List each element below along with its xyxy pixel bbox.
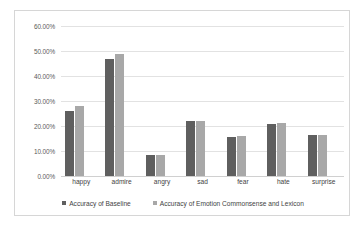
bar — [146, 155, 155, 177]
y-axis-tick-label: 50.00% — [34, 48, 55, 55]
legend-item[interactable]: Accuracy of Emotion Commonsense and Lexi… — [153, 200, 304, 207]
plot-area — [61, 26, 344, 176]
bar — [115, 54, 124, 176]
legend-swatch-icon — [153, 201, 157, 205]
legend-label: Accuracy of Emotion Commonsense and Lexi… — [160, 200, 304, 207]
bar — [65, 111, 74, 176]
gridline — [61, 176, 344, 177]
y-axis-tick-label: 40.00% — [34, 73, 55, 80]
bar-group — [304, 26, 344, 176]
bar-group — [223, 26, 263, 176]
x-axis: happyadmireangrysadfearhatesurprise — [61, 178, 344, 192]
legend-item[interactable]: Accuracy of Baseline — [62, 200, 131, 207]
bar — [277, 123, 286, 176]
x-axis-tick-label: sad — [182, 178, 222, 185]
bar-group — [61, 26, 101, 176]
bar — [186, 121, 195, 176]
bar — [227, 137, 236, 177]
bar — [75, 106, 84, 177]
x-axis-tick-label: surprise — [304, 178, 344, 185]
x-axis-tick-label: hate — [263, 178, 303, 185]
bar — [156, 155, 165, 176]
bar-group — [182, 26, 222, 176]
chart-legend: Accuracy of BaselineAccuracy of Emotion … — [15, 195, 351, 211]
bar — [105, 59, 114, 177]
bar — [308, 135, 317, 176]
chart-container: 0.00%10.00%20.00%30.00%40.00%50.00%60.00… — [14, 10, 350, 216]
x-axis-tick-label: fear — [223, 178, 263, 185]
bar-group — [101, 26, 141, 176]
bar — [237, 136, 246, 176]
x-axis-tick-label: happy — [61, 178, 101, 185]
y-axis-tick-label: 60.00% — [34, 23, 55, 30]
y-axis: 0.00%10.00%20.00%30.00%40.00%50.00%60.00… — [15, 26, 59, 176]
legend-label: Accuracy of Baseline — [69, 200, 131, 207]
y-axis-tick-label: 20.00% — [34, 123, 55, 130]
bar — [196, 121, 205, 177]
bar-group — [142, 26, 182, 176]
bar-group — [263, 26, 303, 176]
bar — [267, 124, 276, 176]
x-axis-tick-label: angry — [142, 178, 182, 185]
x-axis-tick-label: admire — [101, 178, 141, 185]
bar — [318, 135, 327, 177]
y-axis-tick-label: 0.00% — [37, 173, 55, 180]
y-axis-tick-label: 10.00% — [34, 148, 55, 155]
y-axis-tick-label: 30.00% — [34, 98, 55, 105]
legend-swatch-icon — [62, 201, 66, 205]
